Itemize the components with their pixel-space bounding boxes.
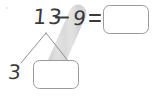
- math-worksheet-canvas: 13 9 3: [0, 0, 156, 98]
- answer-box-difference[interactable]: [104, 6, 149, 34]
- number-bond-known-part-3: 3: [7, 62, 22, 82]
- equals-sign-top-bar: [89, 14, 101, 16]
- minuend-13: 13: [32, 7, 65, 28]
- subtrahend-9: 9: [72, 8, 88, 28]
- number-bond-missing-part-box[interactable]: [34, 61, 79, 89]
- equals-sign-bottom-bar: [89, 20, 101, 22]
